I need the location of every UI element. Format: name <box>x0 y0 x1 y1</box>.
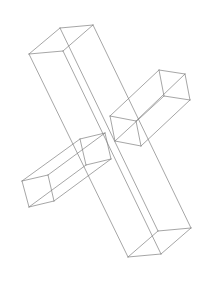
wireframe-figure <box>0 0 208 284</box>
canvas-background <box>0 0 208 284</box>
wireframe-canvas <box>0 0 208 284</box>
